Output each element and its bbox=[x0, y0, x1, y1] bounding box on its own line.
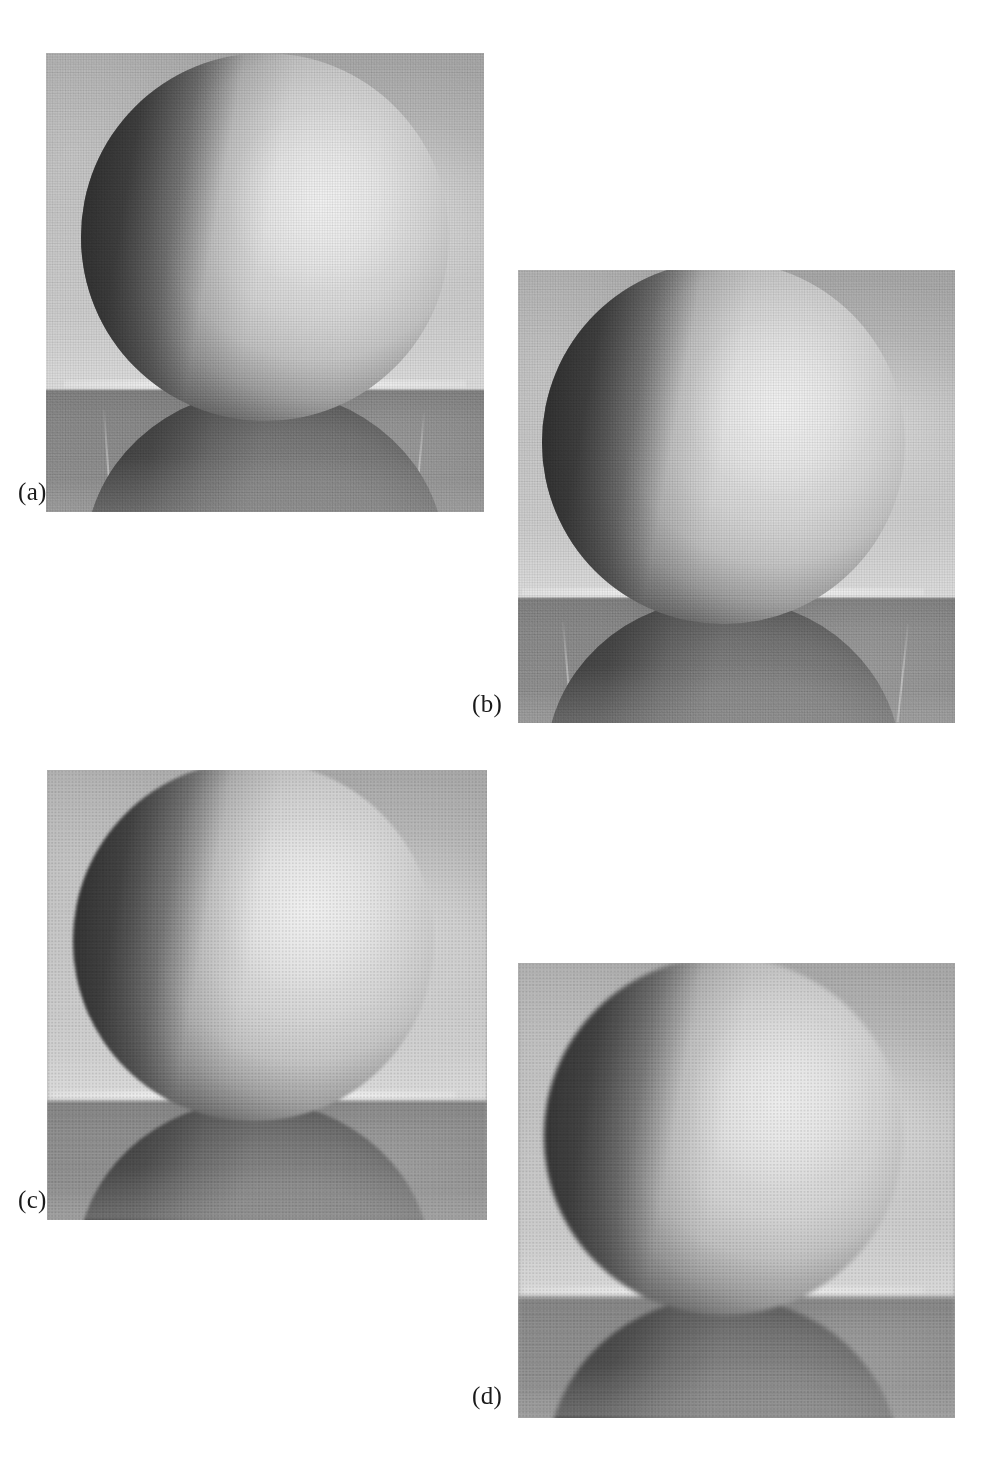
figure-panel-d bbox=[518, 963, 955, 1418]
figure-panel-c bbox=[47, 770, 487, 1220]
figure-panel-a bbox=[46, 53, 484, 512]
panel-c-film-grain bbox=[47, 770, 487, 1220]
figure-panel-b bbox=[518, 270, 955, 723]
panel-c-caption: (c) bbox=[18, 1186, 47, 1214]
panel-a-caption: (a) bbox=[18, 478, 47, 506]
panel-b-film-grain bbox=[518, 270, 955, 723]
figure-sheet: (a) (b) bbox=[0, 0, 1001, 1483]
panel-d-caption: (d) bbox=[472, 1382, 502, 1410]
panel-a-film-grain bbox=[46, 53, 484, 512]
panel-d-film-grain bbox=[518, 963, 955, 1418]
panel-b-caption: (b) bbox=[472, 690, 502, 718]
